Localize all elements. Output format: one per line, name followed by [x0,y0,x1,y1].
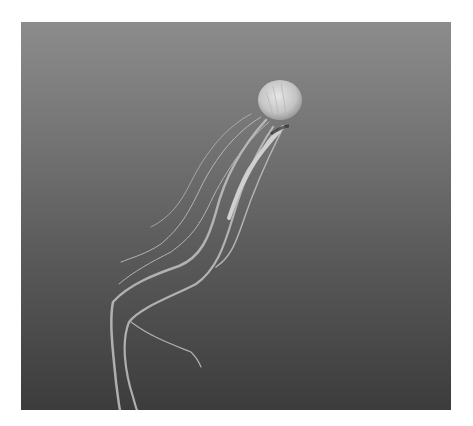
jellyfish-illustration [21,22,451,410]
jellyfish-bell [258,80,302,120]
jellyfish-photo [21,22,451,410]
